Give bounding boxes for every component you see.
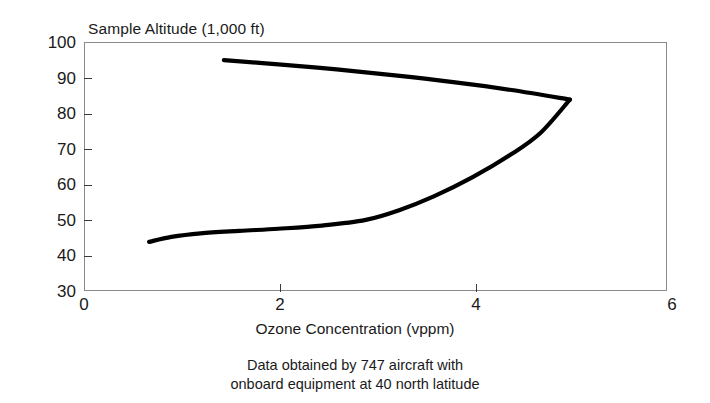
chart-caption: Data obtained by 747 aircraft with onboa… [0,356,710,394]
xtick-label-2: 2 [260,296,300,313]
ytick-mark-60 [84,185,92,186]
ytick-mark-50 [84,220,92,221]
chart-title: Sample Altitude (1,000 ft) [88,20,265,38]
caption-line-1: Data obtained by 747 aircraft with [0,356,710,375]
x-axis-label: Ozone Concentration (vppm) [0,320,710,338]
ytick-mark-80 [84,114,92,115]
xtick-label-4: 4 [456,296,496,313]
xtick-mark-2 [280,284,281,292]
caption-line-2: onboard equipment at 40 north latitude [0,375,710,394]
xtick-label-6: 6 [652,296,692,313]
ytick-mark-40 [84,256,92,257]
ytick-label-60: 60 [30,176,76,193]
plot-frame [84,42,667,291]
ytick-label-40: 40 [30,247,76,264]
xtick-label-0: 0 [64,296,104,313]
ytick-label-100: 100 [30,34,76,51]
xtick-mark-4 [476,284,477,292]
ytick-label-90: 90 [30,70,76,87]
ytick-mark-90 [84,78,92,79]
ytick-label-50: 50 [30,212,76,229]
ytick-label-80: 80 [30,105,76,122]
ytick-label-70: 70 [30,141,76,158]
ytick-mark-70 [84,149,92,150]
ozone-altitude-chart: Sample Altitude (1,000 ft) 100 90 80 70 … [0,0,710,403]
